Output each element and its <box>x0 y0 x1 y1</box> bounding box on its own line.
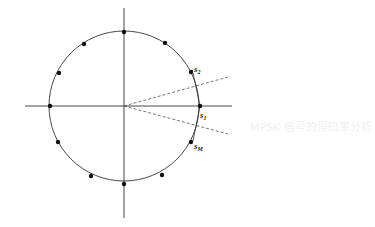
label-s1: s1 <box>199 110 207 121</box>
constellation-point <box>56 140 60 144</box>
constellation-point <box>189 140 193 144</box>
mpsk-constellation-diagram: s2 s1 sM <box>0 0 375 227</box>
constellation-point <box>48 104 52 108</box>
decision-boundary-upper <box>124 77 228 106</box>
constellation-point <box>122 182 126 186</box>
constellation-point <box>163 41 167 45</box>
constellation-point <box>57 71 61 75</box>
constellation-point <box>198 104 202 108</box>
constellation-point <box>122 30 126 34</box>
decision-boundary-lower <box>124 106 228 134</box>
constellation-point <box>82 42 86 46</box>
label-s2: s2 <box>193 64 201 75</box>
chord-s1-s2 <box>193 73 200 106</box>
chord-s1-sM <box>193 106 200 141</box>
label-sM: sM <box>193 141 204 152</box>
constellation-point <box>89 174 93 178</box>
constellation-point <box>160 173 164 177</box>
constellation-point <box>189 70 193 74</box>
